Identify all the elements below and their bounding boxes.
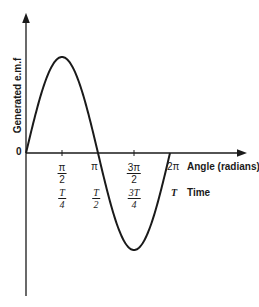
tick-pi-half: π 2 [58,162,67,185]
tick-t: T [171,187,177,198]
tick-2pi: 2π [167,161,179,172]
y-axis-label: Generated e.m.f [12,51,23,141]
angle-axis-label: Angle (radians) [187,161,259,172]
origin-label: 0 [16,146,22,157]
sine-wave-chart [0,0,259,307]
tick-t4: T 4 [58,187,66,210]
tick-t2: T 2 [92,187,100,210]
time-axis-label: Time [187,187,210,198]
tick-3t4: 3T 4 [128,187,141,210]
tick-pi: π [91,161,98,172]
tick-3pi-half: 3π 2 [127,162,141,185]
